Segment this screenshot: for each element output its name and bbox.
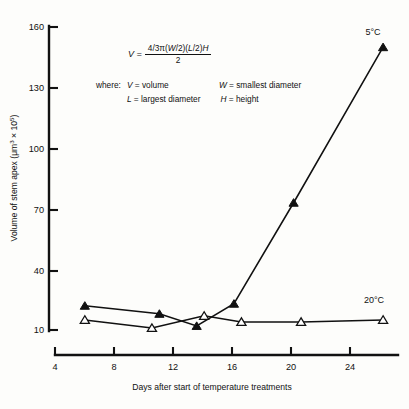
- x-ticklabel-8: 8: [111, 362, 116, 372]
- x-ticklabel-16: 16: [227, 362, 237, 372]
- y-ticklabel-40: 40: [34, 266, 44, 276]
- definition-smallest-diameter: W = smallest diameter: [219, 80, 301, 90]
- numerator-coefficient: 4/3π(: [148, 43, 168, 53]
- text-v: = volume: [135, 80, 169, 90]
- figure-container: 160 130 100 70 40 10 Volume of stem apex…: [0, 0, 409, 409]
- definitions-block: where: V = volume W = smallest diameter …: [96, 80, 346, 104]
- numerator-h: H: [202, 43, 208, 53]
- equation-fraction: 4/3π(W/2)(L/2)H 2: [145, 44, 212, 65]
- definition-volume: V = volume: [127, 80, 199, 90]
- term-h: H: [220, 94, 226, 104]
- x-ticklabel-4: 4: [52, 362, 57, 372]
- numerator-w: W: [168, 43, 176, 53]
- x-ticklabel-12: 12: [168, 362, 178, 372]
- term-v: V: [127, 80, 133, 90]
- y-ticklabel-160: 160: [29, 22, 44, 32]
- formula-annotation: V = 4/3π(W/2)(L/2)H 2 where: V = volume …: [96, 44, 346, 104]
- equation-row: V = 4/3π(W/2)(L/2)H 2: [96, 44, 346, 65]
- definition-row-2: L = largest diameter H = height: [127, 94, 301, 104]
- x-ticklabel-24: 24: [345, 362, 355, 372]
- series-line-20C: [85, 316, 383, 328]
- marker-filled-triangle: [289, 199, 298, 207]
- definition-height: H = height: [220, 94, 258, 104]
- series-label-5c: 5°C: [365, 27, 381, 37]
- x-axis-title: Days after start of temperature treatmen…: [132, 382, 292, 392]
- y-ticklabel-130: 130: [29, 83, 44, 93]
- series-20c: [80, 312, 387, 332]
- y-ticklabel-100: 100: [29, 144, 44, 154]
- marker-open-triangle: [200, 312, 209, 320]
- y-axis: 160 130 100 70 40 10: [29, 22, 58, 335]
- equation-numerator: 4/3π(W/2)(L/2)H: [145, 44, 212, 54]
- definition-row-1: V = volume W = smallest diameter: [127, 80, 301, 90]
- term-l: L: [127, 94, 132, 104]
- series-label-20c: 20°C: [364, 295, 385, 305]
- y-ticklabel-10: 10: [34, 325, 44, 335]
- y-ticklabel-70: 70: [34, 205, 44, 215]
- text-w: = smallest diameter: [229, 80, 301, 90]
- marker-filled-triangle: [378, 43, 387, 51]
- definitions-list: V = volume W = smallest diameter L = lar…: [127, 80, 301, 104]
- x-axis: 4 8 12 16 20 24: [52, 347, 398, 372]
- marker-filled-triangle: [229, 300, 238, 308]
- text-h: = height: [229, 94, 259, 104]
- equation-lhs: V =: [128, 49, 142, 60]
- equation-denominator: 2: [176, 55, 181, 65]
- numerator-close: /2): [193, 43, 203, 53]
- where-label: where:: [96, 80, 121, 104]
- y-axis-title: Volume of stem apex (μm3 × 105): [8, 114, 20, 241]
- term-w: W: [219, 80, 227, 90]
- text-l: = largest diameter: [134, 94, 201, 104]
- definition-largest-diameter: L = largest diameter: [127, 94, 201, 104]
- numerator-mid: /2)(: [176, 43, 188, 53]
- x-ticklabel-20: 20: [286, 362, 296, 372]
